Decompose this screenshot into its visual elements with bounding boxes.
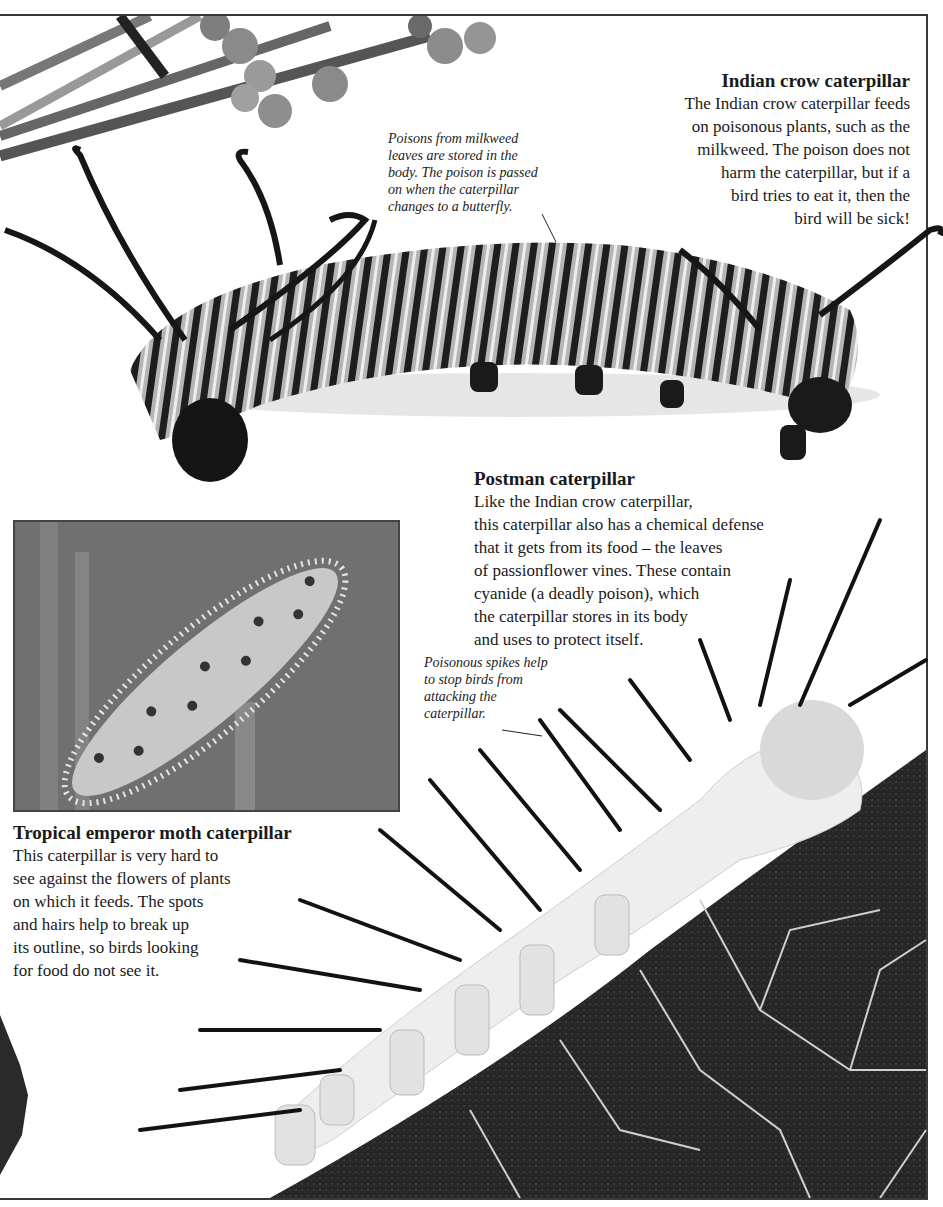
postman-heading: Postman caterpillar — [474, 468, 874, 490]
indian-crow-body: The Indian crow caterpillar feeds on poi… — [600, 92, 910, 230]
indian-crow-caption-text: Poisons from milkweed leaves are stored … — [388, 130, 598, 215]
caption-leader-line — [540, 212, 560, 244]
indian-crow-section: Indian crow caterpillar The Indian crow … — [600, 70, 910, 230]
indian-crow-heading: Indian crow caterpillar — [600, 70, 910, 92]
page-frame-bottom — [0, 1198, 928, 1200]
postman-caterpillar-image — [0, 510, 928, 1198]
indian-crow-caption: Poisons from milkweed leaves are stored … — [388, 130, 598, 215]
partial-image-left-edge — [0, 1015, 30, 1180]
